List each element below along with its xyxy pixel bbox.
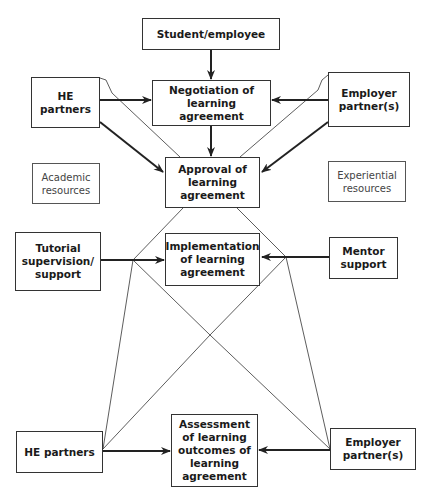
node-he-partners-top: HE partners — [31, 77, 100, 128]
node-approval: Approval of learning agreement — [165, 157, 260, 208]
node-negotiation: Negotiation of learning agreement — [152, 80, 271, 126]
node-label: Implementation of learning agreement — [165, 240, 259, 279]
arrow-he-approval — [100, 122, 163, 172]
node-label: HE partners — [24, 446, 94, 459]
node-he-partners-bottom: HE partners — [16, 431, 103, 473]
node-implementation: Implementation of learning agreement — [165, 233, 260, 286]
node-mentor-support: Mentor support — [329, 237, 398, 279]
node-label: Experiential resources — [335, 169, 399, 195]
node-label: Mentor support — [340, 245, 387, 271]
node-assessment: Assessment of learning outcomes of learn… — [171, 414, 258, 487]
node-student-employee: Student/employee — [142, 18, 280, 50]
node-label: HE partners — [40, 90, 91, 116]
node-label: Student/employee — [157, 28, 266, 41]
node-label: Negotiation of learning agreement — [167, 84, 256, 123]
node-label: Academic resources — [39, 171, 93, 197]
node-academic-resources: Academic resources — [32, 163, 100, 204]
node-experiential-resources: Experiential resources — [328, 161, 406, 202]
node-label: Approval of learning agreement — [174, 163, 251, 202]
node-label: Assessment of learning outcomes of learn… — [176, 418, 253, 483]
node-employer-partners-bottom: Employer partner(s) — [330, 428, 416, 470]
node-label: Tutorial supervision/ support — [22, 242, 94, 281]
node-label: Employer partner(s) — [335, 87, 403, 113]
node-label: Employer partner(s) — [339, 436, 407, 462]
node-employer-partners-top: Employer partner(s) — [328, 72, 410, 127]
node-tutorial-support: Tutorial supervision/ support — [15, 232, 101, 291]
